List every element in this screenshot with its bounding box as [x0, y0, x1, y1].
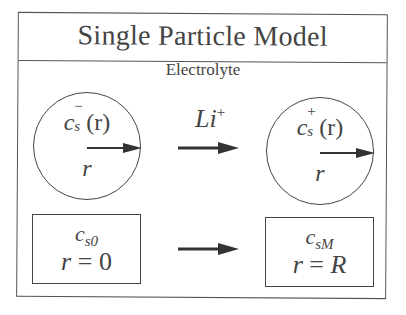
boundary-arrow-icon — [178, 242, 240, 256]
center-position-equation: r = 0 — [33, 247, 140, 277]
electrolyte-label: Electrolyte — [0, 60, 406, 80]
negative-radius-label: r — [34, 155, 140, 182]
diagram-title: Single Particle Model — [19, 19, 387, 53]
negative-concentration-label: c−s(r) — [34, 109, 140, 136]
center-concentration-label: cs0 — [33, 221, 140, 250]
lithium-ion-label: Li+ — [195, 104, 225, 134]
surface-boundary-box: csM r = R — [265, 217, 374, 287]
surface-concentration-label: csM — [266, 224, 373, 253]
ion-transfer-arrow-icon — [178, 141, 240, 155]
radius-arrow-icon — [320, 148, 376, 158]
radius-arrow-icon — [87, 143, 143, 153]
positive-radius-label: r — [267, 160, 373, 187]
negative-particle-circle: c−s(r) r — [33, 92, 141, 200]
center-boundary-box: cs0 r = 0 — [32, 214, 141, 284]
positive-particle-circle: c+s(r) r — [266, 97, 374, 205]
positive-concentration-label: c+s(r) — [267, 114, 373, 141]
surface-position-equation: r = R — [266, 250, 373, 280]
